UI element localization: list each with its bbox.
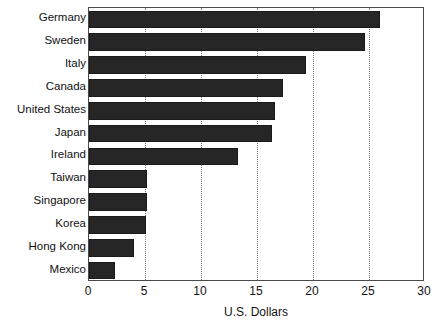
category-label-korea: Korea [0,218,86,230]
bar-ireland [89,148,238,166]
y-axis-category-labels: GermanySwedenItalyCanadaUnited StatesJap… [0,7,86,281]
bar-row [89,102,423,120]
bar-row [89,11,423,29]
x-axis-title: U.S. Dollars [88,306,424,318]
bar-sweden [89,33,365,51]
x-axis-tick-labels: 051015202530 [88,285,424,301]
bar-japan [89,125,272,143]
bar-row [89,216,423,234]
bar-row [89,125,423,143]
category-label-mexico: Mexico [0,264,86,276]
x-tick-0: 0 [85,285,92,297]
category-label-japan: Japan [0,127,86,139]
bar-taiwan [89,170,147,188]
bar-row [89,79,423,97]
category-label-sweden: Sweden [0,35,86,47]
bar-row [89,239,423,257]
bar-row [89,193,423,211]
category-label-canada: Canada [0,81,86,93]
bar-row [89,170,423,188]
x-tick-10: 10 [193,285,206,297]
bar-mexico [89,262,115,280]
bar-hong-kong [89,239,134,257]
category-label-singapore: Singapore [0,195,86,207]
x-tick-20: 20 [305,285,318,297]
bar-united-states [89,102,275,120]
bar-row [89,33,423,51]
bar-row [89,262,423,280]
bar-italy [89,56,306,74]
x-tick-15: 15 [249,285,262,297]
bars-layer [89,8,423,280]
category-label-germany: Germany [0,12,86,24]
bar-chart: GermanySwedenItalyCanadaUnited StatesJap… [0,0,438,328]
bar-row [89,148,423,166]
bar-korea [89,216,146,234]
bar-row [89,56,423,74]
category-label-united-states: United States [0,104,86,116]
x-tick-25: 25 [361,285,374,297]
category-label-ireland: Ireland [0,149,86,161]
category-label-taiwan: Taiwan [0,172,86,184]
x-tick-5: 5 [141,285,148,297]
bar-germany [89,11,380,29]
category-label-hong-kong: Hong Kong [0,241,86,253]
category-label-italy: Italy [0,58,86,70]
bar-canada [89,79,283,97]
plot-area [88,7,424,281]
bar-singapore [89,193,147,211]
x-tick-30: 30 [417,285,430,297]
